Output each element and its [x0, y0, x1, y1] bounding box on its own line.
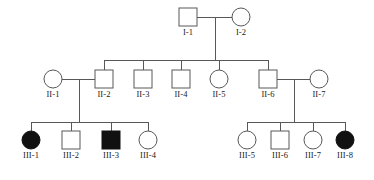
individual-symbol-ii-1[interactable]	[44, 70, 62, 88]
individual-label-iii-8: III-8	[337, 150, 353, 160]
individual-symbol-iii-2[interactable]	[62, 131, 80, 149]
individual-label-ii-6: II-6	[261, 89, 274, 99]
individual-label-i-2: I-2	[236, 27, 246, 37]
individual-symbol-iii-6[interactable]	[271, 131, 289, 149]
individual-symbol-ii-4[interactable]	[172, 70, 190, 88]
individual-symbol-ii-2[interactable]	[95, 70, 113, 88]
individual-symbol-iii-4[interactable]	[139, 131, 157, 149]
individual-symbol-iii-5[interactable]	[238, 131, 256, 149]
individual-label-iii-2: III-2	[63, 150, 79, 160]
individual-symbol-i-1[interactable]	[179, 8, 197, 26]
individual-symbol-ii-6[interactable]	[259, 70, 277, 88]
individual-label-ii-2: II-2	[97, 89, 110, 99]
individual-symbol-iii-8[interactable]	[336, 131, 354, 149]
individual-label-ii-1: II-1	[46, 89, 59, 99]
individual-label-iii-5: III-5	[239, 150, 255, 160]
individual-label-iii-3: III-3	[103, 150, 119, 160]
individual-symbol-ii-7[interactable]	[310, 70, 328, 88]
individual-label-iii-1: III-1	[23, 150, 39, 160]
individual-label-iii-7: III-7	[305, 150, 321, 160]
individual-label-iii-4: III-4	[140, 150, 157, 160]
individual-symbol-i-2[interactable]	[232, 8, 250, 26]
individual-label-ii-5: II-5	[212, 89, 225, 99]
individual-symbol-iii-3[interactable]	[102, 131, 120, 149]
individual-label-i-1: I-1	[183, 27, 193, 37]
individual-symbol-ii-5[interactable]	[210, 70, 228, 88]
pedigree-canvas: I-1I-2II-1II-2II-3II-4II-5II-6II-7III-1I…	[0, 0, 374, 180]
individual-label-ii-4: II-4	[174, 89, 188, 99]
individual-symbol-iii-1[interactable]	[22, 131, 40, 149]
individual-label-ii-7: II-7	[312, 89, 325, 99]
individual-symbol-iii-7[interactable]	[304, 131, 322, 149]
individual-label-ii-3: II-3	[136, 89, 149, 99]
individual-symbol-ii-3[interactable]	[134, 70, 152, 88]
individual-label-iii-6: III-6	[272, 150, 288, 160]
pedigree-chart: I-1I-2II-1II-2II-3II-4II-5II-6II-7III-1I…	[0, 0, 374, 180]
